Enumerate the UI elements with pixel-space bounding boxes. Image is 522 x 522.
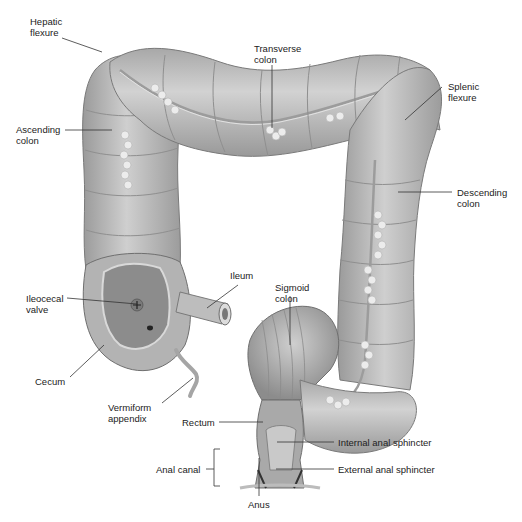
label-rectum: Rectum [182,417,215,428]
label-ileum: Ileum [230,270,253,281]
label-sigmoid-colon: Sigmoid colon [275,282,309,304]
label-ileocecal-valve: Ileocecal valve [26,293,64,315]
label-descending-colon: Descending colon [457,187,507,209]
label-transverse-colon: Transverse colon [254,43,301,65]
cecum-shape [83,253,190,370]
label-ascending-colon: Ascending colon [16,124,60,146]
colon-diagram: Hepatic flexure Transverse colon Splenic… [0,0,522,522]
label-internal-anal-sphincter: Internal anal sphincter [338,437,431,448]
label-cecum: Cecum [35,376,65,387]
label-external-anal-sphincter: External anal sphincter [338,464,435,475]
label-anus: Anus [248,499,270,510]
label-anal-canal: Anal canal [156,464,200,475]
label-vermiform-appendix: Vermiform appendix [108,402,151,424]
label-splenic-flexure: Splenic flexure [448,81,479,103]
label-hepatic-flexure: Hepatic flexure [30,16,62,38]
colon-illustration [0,0,522,522]
